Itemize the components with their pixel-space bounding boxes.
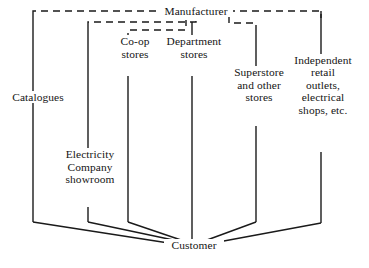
node-coop-stores-line: Co-op xyxy=(112,35,158,48)
connector-independent-to-customer xyxy=(213,223,321,243)
node-department-stores-line: stores xyxy=(160,48,228,61)
node-independent-retail-line: shops, etc. xyxy=(287,104,359,117)
connector-manufacturer-to-superstore xyxy=(229,16,256,31)
node-catalogues: Catalogues xyxy=(3,91,73,104)
node-superstore-line: stores xyxy=(227,91,291,104)
connector-superstore-to-customer xyxy=(207,222,256,240)
node-independent-retail: Independentretailoutlets,electricalshops… xyxy=(287,54,359,117)
node-customer: Customer xyxy=(164,239,224,252)
node-independent-retail-line: electrical xyxy=(287,91,359,104)
node-independent-retail-line: outlets, xyxy=(287,79,359,92)
distribution-channels-diagram: ManufacturerCataloguesCo-opstoresDepartm… xyxy=(0,0,369,268)
node-department-stores-line: Department xyxy=(160,35,228,48)
node-electricity-showroom-line: showroom xyxy=(53,173,127,186)
node-independent-retail-line: retail xyxy=(287,66,359,79)
node-catalogues-line: Catalogues xyxy=(3,91,73,104)
node-coop-stores-line: stores xyxy=(112,48,158,61)
node-electricity-showroom-line: Company xyxy=(53,161,127,174)
connector-manufacturer-to-independent xyxy=(228,11,321,18)
node-manufacturer: Manufacturer xyxy=(159,5,233,18)
node-electricity-showroom-line: Electricity xyxy=(53,148,127,161)
node-superstore: Superstoreand otherstores xyxy=(227,66,291,104)
node-department-stores: Departmentstores xyxy=(160,35,228,60)
node-electricity-showroom: ElectricityCompanyshowroom xyxy=(53,148,127,186)
node-manufacturer-line: Manufacturer xyxy=(159,5,233,18)
node-customer-line: Customer xyxy=(164,239,224,252)
node-superstore-line: and other xyxy=(227,79,291,92)
connector-manufacturer-to-electricity-showroom xyxy=(88,16,196,28)
connector-manufacturer-to-catalogues xyxy=(33,11,163,15)
node-independent-retail-line: Independent xyxy=(287,54,359,67)
node-superstore-line: Superstore xyxy=(227,66,291,79)
node-coop-stores: Co-opstores xyxy=(112,35,158,60)
